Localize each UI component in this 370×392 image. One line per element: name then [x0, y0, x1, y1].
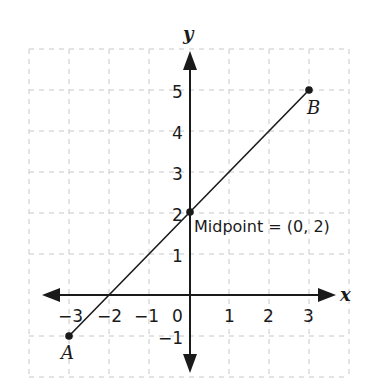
x-axis-left-arrow-icon	[42, 288, 60, 302]
y-axis-label: y	[182, 23, 195, 44]
coordinate-plane: x y −3 −2 −1 0 1 2 3 5 4 3 2 1 −1 A B Mi…	[0, 0, 370, 392]
point-b-label: B	[306, 97, 320, 118]
y-axis-up-arrow-icon	[183, 51, 197, 70]
x-axis-right-arrow-icon	[318, 288, 336, 302]
x-axis-label: x	[339, 284, 351, 305]
midpoint-annotation: Midpoint = (0, 2)	[194, 217, 330, 236]
x-tick-label: 0	[172, 306, 183, 326]
y-tick-label: 3	[172, 164, 183, 184]
x-tick-label: 1	[224, 306, 235, 326]
x-tick-label: −3	[58, 306, 83, 326]
y-tick-label: −1	[158, 328, 183, 348]
y-axis-down-arrow-icon	[183, 354, 197, 373]
point-a-label: A	[59, 342, 74, 363]
x-tick-label: −1	[134, 306, 159, 326]
x-tick-label: 3	[303, 306, 314, 326]
point-a	[65, 332, 73, 340]
y-tick-label: 4	[172, 123, 183, 143]
y-tick-label: 5	[172, 82, 183, 102]
midpoint	[186, 208, 194, 216]
x-tick-label: −2	[97, 306, 122, 326]
x-tick-label: 2	[263, 306, 274, 326]
point-b	[305, 86, 313, 94]
y-tick-label: 1	[172, 246, 183, 266]
